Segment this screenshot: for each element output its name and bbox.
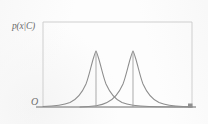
origin-label: O [31, 97, 38, 107]
density-curve-class-1 [43, 51, 192, 107]
y-axis-label: p(x|C) [12, 22, 35, 32]
figure-container: p(x|C) O [0, 0, 208, 124]
density-curve-class-2 [80, 51, 192, 107]
